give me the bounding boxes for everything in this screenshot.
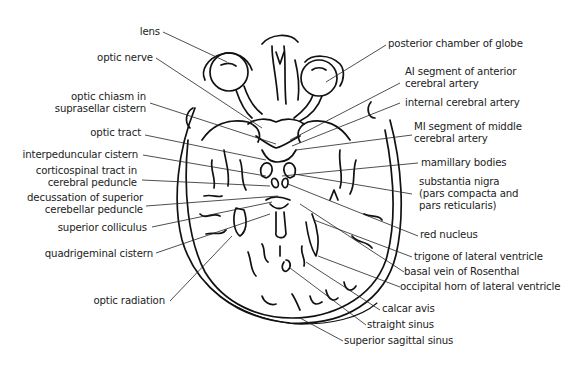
label-posterior-chamber: posterior chamber of globe [388, 38, 523, 50]
label-text: straight sinus [367, 319, 434, 331]
label-text: cerebral peduncle [36, 177, 137, 189]
label-text: optic radiation [93, 295, 165, 307]
label-m1-segment: MI segment of middle cerebral artery [414, 121, 522, 145]
label-red-nucleus: red nucleus [420, 229, 478, 241]
label-decussation: decussation of superior cerebellar pedun… [27, 192, 143, 216]
label-text: interpeduncular cistern [23, 149, 138, 161]
skull-outline [177, 102, 401, 324]
label-occipital-horn: occipital horn of lateral ventricle [400, 281, 560, 293]
brain-structures [200, 119, 382, 310]
label-text: superior sagittal sinus [344, 335, 453, 347]
label-trigone: trigone of lateral ventricle [414, 251, 543, 263]
label-optic-tract: optic tract [90, 127, 141, 139]
label-text: mamillary bodies [421, 157, 506, 169]
label-text: trigone of lateral ventricle [414, 251, 543, 263]
label-substantia-nigra: substantia nigra (pars compacta and pars… [419, 176, 518, 212]
label-text: corticospinal tract in [36, 165, 137, 177]
label-superior-colliculus: superior colliculus [58, 222, 147, 234]
label-optic-radiation: optic radiation [93, 295, 165, 307]
label-text: optic tract [90, 127, 141, 139]
label-mamillary-bodies: mamillary bodies [421, 157, 506, 169]
label-text: substantia nigra [419, 176, 518, 188]
label-straight-sinus: straight sinus [367, 319, 434, 331]
label-text: MI segment of middle [414, 121, 522, 133]
label-basal-vein: basal vein of Rosenthal [404, 266, 519, 278]
label-text: superior colliculus [58, 222, 147, 234]
orbits [204, 35, 344, 121]
label-text: occipital horn of lateral ventricle [400, 281, 560, 293]
label-text: internal cerebral artery [405, 97, 520, 109]
label-text: quadrigeminal cistern [45, 248, 153, 260]
label-text: cerebellar peduncle [27, 204, 143, 216]
label-text: posterior chamber of globe [388, 38, 523, 50]
label-optic-chiasm: optic chiasm in suprasellar cistern [55, 91, 146, 115]
label-text: cerebral artery [414, 133, 522, 145]
label-text: decussation of superior [27, 192, 143, 204]
label-superior-sagittal-sinus: superior sagittal sinus [344, 335, 453, 347]
label-corticospinal-tract: corticospinal tract in cerebral peduncle [36, 165, 137, 189]
label-optic-nerve: optic nerve [97, 52, 153, 64]
label-text: (pars compacta and [419, 188, 518, 200]
label-interpeduncular-cistern: interpeduncular cistern [23, 149, 138, 161]
label-text: optic chiasm in [55, 91, 146, 103]
label-text: suprasellar cistern [55, 103, 146, 115]
label-text: red nucleus [420, 229, 478, 241]
label-text: pars reticularis) [419, 200, 518, 212]
label-text: AI segment of anterior [405, 66, 516, 78]
label-text: optic nerve [97, 52, 153, 64]
label-internal-cerebral-artery: internal cerebral artery [405, 97, 520, 109]
label-text: lens [140, 26, 160, 38]
label-lens: lens [140, 26, 160, 38]
label-text: calcar avis [382, 303, 435, 315]
label-quadrigeminal-cistern: quadrigeminal cistern [45, 248, 153, 260]
label-text: cerebral artery [405, 78, 516, 90]
label-a1-segment: AI segment of anterior cerebral artery [405, 66, 516, 90]
label-text: basal vein of Rosenthal [404, 266, 519, 278]
label-calcar-avis: calcar avis [382, 303, 435, 315]
